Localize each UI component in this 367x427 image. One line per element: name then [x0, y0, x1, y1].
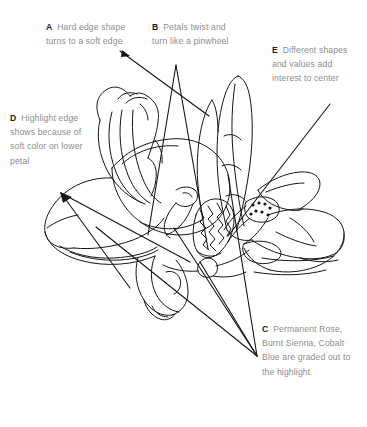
callout-d-text: Highlight edge shows because of soft col… [10, 113, 83, 166]
petal-front-curl-inner [183, 193, 192, 197]
leader-line-d2 [61, 193, 190, 262]
pollen-dot-2 [257, 201, 260, 204]
callout-b-key: B [152, 22, 158, 32]
center-stem-3 [216, 250, 249, 266]
petal-front-highlight-edge [122, 146, 178, 164]
callout-b: BPetals twist and turn like a pinwheel [152, 20, 232, 48]
callout-e-key: E [272, 45, 278, 55]
leader-a-head [121, 50, 130, 57]
petal-tall-kink-2 [222, 165, 241, 170]
petal-front-curl [176, 187, 197, 207]
pollen-dot-4 [268, 206, 271, 209]
petal-tall-mid [232, 84, 244, 226]
petal-tall2-right [212, 100, 218, 132]
callout-a: AHard edge shape turns to a soft edge [46, 20, 132, 48]
petal-front-curl-tail-2 [166, 204, 193, 235]
callout-d: DHighlight edge shows because of soft co… [10, 111, 94, 168]
pollen-dot-6 [260, 210, 263, 213]
petal-right-lower-top [268, 209, 344, 232]
petal-right-lower-bottom [252, 240, 336, 259]
callout-c-text: Permanent Rose, Burnt Sienna, Cobalt Blu… [262, 324, 350, 377]
callout-a-key: A [46, 22, 52, 32]
leader-line-c2 [174, 228, 257, 356]
pollen-dot-7 [266, 213, 269, 216]
petal-front-curl-tail [164, 203, 176, 238]
pollen-dot-8 [249, 212, 252, 215]
petal-left-lateral-top [45, 178, 112, 249]
leader-line-c3 [228, 175, 257, 356]
petal-upper-left-tip [130, 93, 147, 96]
petal-tall-left [217, 76, 238, 230]
petal-upper-left-fold-3 [132, 110, 161, 203]
leader-line-a [120, 51, 209, 116]
petal-upper-left-crease-2 [155, 140, 162, 163]
leader-line-c4 [96, 227, 257, 356]
petal-upper-left-outer [97, 87, 130, 120]
leader-line-e [228, 104, 330, 236]
leader-line-b2 [148, 65, 176, 235]
leader-line-b1 [176, 65, 208, 249]
petal-right-upper-vein [266, 183, 304, 192]
leader-line-d1 [61, 193, 130, 288]
petal-right-lower-tip [336, 234, 344, 253]
callout-d-key: D [10, 113, 16, 123]
callout-e-text: Different shapes and values add interest… [272, 45, 348, 83]
petal-upper-left-body [98, 120, 145, 204]
callout-a-text: Hard edge shape turns to a soft edge [46, 22, 125, 46]
stray-edge-right-1 [262, 256, 334, 261]
petal-right-lower-fold-2 [276, 232, 316, 246]
petal-bottom-tip [144, 300, 175, 320]
anther-jag-2 [208, 206, 216, 251]
petal-upper-left-tip-inner [126, 97, 147, 103]
leader-d-head [60, 192, 72, 203]
callout-b-text: Petals twist and turn like a pinwheel [152, 22, 229, 46]
callout-e: EDifferent shapes and values add interes… [272, 43, 356, 86]
center-stem-1 [213, 272, 246, 277]
petal-right-upper-bottom [258, 190, 303, 211]
petal-tip-flick-2 [140, 104, 148, 120]
figure-page: AHard edge shape turns to a soft edge BP… [0, 0, 367, 427]
petal-right-lower-fold [290, 218, 314, 242]
petal-left-lateral-vein [47, 215, 78, 228]
petal-front-main [112, 139, 230, 235]
petal-bottom-curl [166, 271, 181, 294]
pollen-dot-3 [263, 202, 266, 205]
pollen-dot-5 [254, 209, 257, 212]
callout-c: CPermanent Rose, Burnt Sienna, Cobalt Bl… [262, 322, 356, 379]
petal-bottom-left-2 [151, 256, 179, 312]
callout-c-key: C [262, 324, 268, 334]
